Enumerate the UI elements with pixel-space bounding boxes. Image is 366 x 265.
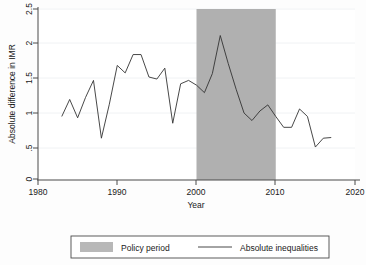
y-tick-label-0: 0 (24, 176, 34, 181)
x-axis-title: Year (187, 200, 204, 210)
x-tick-label-2010: 2010 (266, 187, 285, 197)
y-tick-label-1-5: 1.5 (24, 72, 34, 84)
x-tick-label-1980: 1980 (29, 187, 48, 197)
x-tick-label-2020: 2020 (346, 187, 365, 197)
x-tick-label-2000: 2000 (187, 187, 206, 197)
y-tick-label-1: 1 (24, 110, 34, 115)
y-tick-label-2: 2 (24, 40, 34, 45)
chart-figure: 2.5 2 1.5 1 .5 0 Absolute difference in … (0, 0, 366, 265)
y-axis: 2.5 2 1.5 1 .5 0 Absolute difference in … (7, 3, 38, 182)
legend-label-policy-period: Policy period (121, 243, 170, 253)
y-tick-label-2-5: 2.5 (24, 3, 34, 15)
legend: Policy period Absolute inequalities (71, 236, 329, 258)
legend-label-absolute-inequalities: Absolute inequalities (240, 243, 318, 253)
y-tick-label-0-5: .5 (24, 144, 34, 151)
x-tick-label-1990: 1990 (108, 187, 127, 197)
y-axis-title: Absolute difference in IMR (7, 44, 17, 144)
line-chart: 2.5 2 1.5 1 .5 0 Absolute difference in … (0, 0, 366, 265)
legend-swatch-policy-period (80, 242, 113, 252)
policy-period-shaded-region (197, 9, 276, 180)
x-axis: 1980 1990 2000 2010 2020 Year (29, 180, 365, 210)
